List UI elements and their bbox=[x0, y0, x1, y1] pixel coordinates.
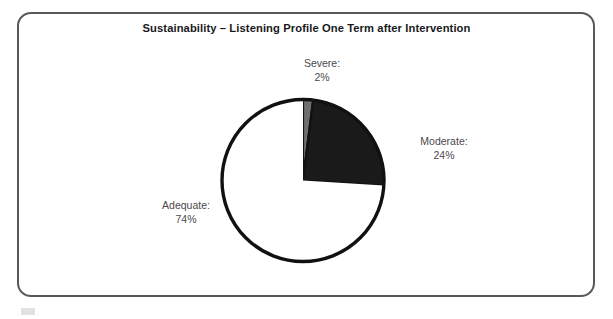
slice-label-severe: Severe: 2% bbox=[262, 56, 382, 84]
slice-label-adequate-value: 74% bbox=[126, 212, 246, 226]
slice-label-moderate: Moderate: 24% bbox=[384, 134, 504, 162]
slice-label-severe-name: Severe: bbox=[304, 57, 340, 69]
slice-label-severe-value: 2% bbox=[262, 70, 382, 84]
pie-chart bbox=[0, 0, 613, 319]
slice-label-adequate: Adequate: 74% bbox=[126, 198, 246, 226]
pie-slice-moderate bbox=[303, 100, 384, 185]
scan-artifact bbox=[21, 308, 35, 315]
pie-chart-svg bbox=[0, 0, 613, 319]
slice-label-adequate-name: Adequate: bbox=[162, 199, 210, 211]
slice-label-moderate-value: 24% bbox=[384, 148, 504, 162]
slice-label-moderate-name: Moderate: bbox=[420, 135, 467, 147]
